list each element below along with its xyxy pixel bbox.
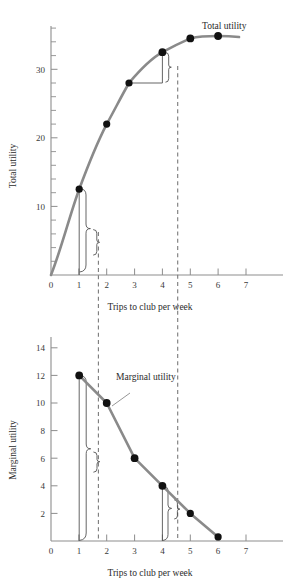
- marginal-utility-y-axis-title: Marginal utility: [8, 420, 18, 480]
- marginal-utility-curve-label: Marginal utility: [116, 372, 176, 382]
- data-point: [75, 372, 83, 380]
- total-utility-xtick-1: 1: [77, 280, 82, 290]
- marginal-utility-xtick-1: 1: [77, 546, 82, 556]
- total-utility-xtick-6: 6: [216, 280, 221, 290]
- data-point: [131, 454, 139, 462]
- marginal-utility-curve: [79, 375, 218, 537]
- total-utility-xtick-7: 7: [244, 280, 249, 290]
- total-utility-ytick-10: 10: [36, 202, 46, 212]
- total-utility-x-ticks: [79, 269, 246, 276]
- data-point: [125, 79, 132, 86]
- total-utility-y-axis-title: Total utility: [8, 144, 18, 189]
- total-utility-data-points: [76, 32, 222, 193]
- total-utility-xtick-5: 5: [188, 280, 193, 290]
- marginal-utility-ytick-2: 2: [41, 509, 46, 519]
- marginal-utility-xtick-0: 0: [49, 546, 54, 556]
- marginal-utility-ytick-10: 10: [36, 398, 46, 408]
- marginal-utility-ytick-14: 14: [36, 343, 46, 353]
- total-utility-xtick-2: 2: [104, 280, 109, 290]
- marginal-utility-ytick-12: 12: [36, 371, 45, 381]
- data-point: [103, 121, 110, 128]
- total-utility-xtick-4: 4: [160, 280, 165, 290]
- total-utility-y-minor-ticks: [51, 28, 56, 261]
- data-point: [215, 533, 222, 540]
- total-utility-ytick-30: 30: [36, 65, 46, 75]
- total-utility-curve-label: Total utility: [202, 21, 247, 31]
- total-utility-x-axis-title: Trips to club per week: [107, 302, 192, 312]
- utility-figure: Total utility 10 20: [0, 0, 308, 584]
- total-utility-xtick-0: 0: [49, 280, 54, 290]
- marginal-utility-x-axis-title: Trips to club per week: [107, 568, 192, 578]
- data-point: [76, 186, 83, 193]
- data-point: [103, 399, 111, 407]
- marginal-utility-ytick-8: 8: [41, 426, 46, 436]
- total-utility-xtick-3: 3: [132, 280, 137, 290]
- data-point: [186, 35, 194, 43]
- total-utility-ytick-20: 20: [36, 133, 46, 143]
- data-point: [159, 48, 167, 56]
- marginal-utility-leader-line: [112, 393, 130, 406]
- marginal-utility-brace-first-unit: [80, 375, 91, 540]
- marginal-utility-xtick-2: 2: [104, 546, 109, 556]
- total-utility-brace-first-unit: [80, 189, 91, 273]
- total-utility-y-major-ticks: [51, 69, 58, 206]
- panel-marginal-utility: Marginal utility 2 4 6 8 10 12 14: [8, 337, 283, 578]
- marginal-utility-ytick-6: 6: [41, 454, 46, 464]
- marginal-utility-inner-brace-left: [93, 452, 99, 472]
- marginal-utility-xtick-3: 3: [132, 546, 137, 556]
- data-point: [214, 32, 222, 40]
- marginal-utility-y-ticks: [51, 348, 58, 514]
- panel-total-utility: Total utility 10 20: [8, 21, 283, 312]
- marginal-utility-xtick-6: 6: [216, 546, 221, 556]
- marginal-utility-ytick-4: 4: [41, 481, 46, 491]
- data-point: [187, 510, 194, 517]
- marginal-utility-xtick-7: 7: [244, 546, 249, 556]
- marginal-utility-xtick-5: 5: [188, 546, 193, 556]
- marginal-utility-xtick-4: 4: [160, 546, 165, 556]
- total-utility-step-brace: [166, 53, 172, 83]
- data-point: [159, 482, 167, 490]
